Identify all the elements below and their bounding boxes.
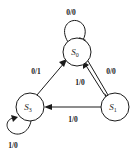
transition-label-s3-self: 1/0 [8, 141, 18, 150]
edge-s1-s0-path [85, 64, 104, 94]
state-node-s0[interactable]: S0 [63, 38, 91, 66]
state-node-s3[interactable]: S3 [16, 93, 44, 121]
state-node-s3-subscript: 3 [29, 107, 32, 113]
edge-s0-s1-path [88, 61, 108, 95]
state-node-s0-subscript: 0 [76, 52, 79, 58]
transition-s1-to-s3: 1/0 [44, 104, 101, 124]
state-node-s1[interactable]: S1 [101, 93, 129, 121]
edge-s3-s0-path [37, 62, 65, 95]
edge-s1-s3-arrowhead [44, 104, 52, 110]
transition-label-s1-s3: 1/0 [68, 115, 78, 124]
transition-label-s0-s1: 0/0 [106, 67, 116, 76]
state-node-s1-subscript: 1 [114, 107, 117, 113]
transition-label-s1-s0: 1/0 [75, 78, 85, 87]
state-diagram-canvas: 0/0 0/1 0/0 1/0 1/0 [0, 0, 136, 155]
transition-label-s3-s0: 0/1 [31, 67, 41, 76]
self-loop-s3-arrowhead [11, 115, 18, 122]
transition-s3-to-s0: 0/1 [31, 59, 67, 95]
transition-label-s0-self: 0/0 [66, 8, 76, 17]
state-diagram-figure: 0/0 0/1 0/0 1/0 1/0 [0, 0, 136, 155]
